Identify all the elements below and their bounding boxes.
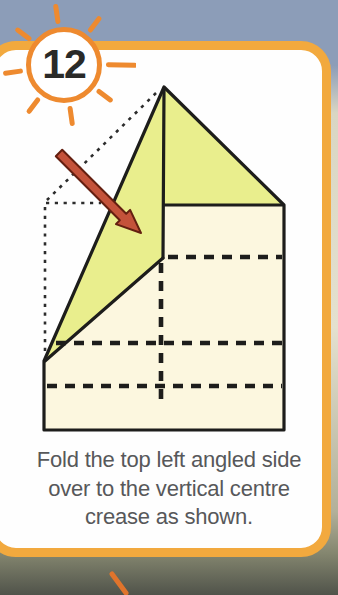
step-number: 12 [42, 44, 86, 85]
step-badge: 12 [26, 27, 102, 103]
caption-line-1: Fold the top left angled side [2, 446, 336, 475]
next-step-ray-mark [112, 574, 126, 593]
instruction-caption: Fold the top left angled side over to th… [2, 446, 336, 532]
caption-line-3: crease as shown. [2, 503, 336, 532]
caption-line-2: over to the vertical centre [2, 475, 336, 504]
page-background: { "step": { "number": "12" }, "caption":… [0, 0, 338, 595]
